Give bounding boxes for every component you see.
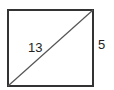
side-length-label: 5 bbox=[98, 37, 105, 52]
diagonal-line bbox=[8, 10, 93, 86]
rectangle-diagram: 13 5 bbox=[0, 0, 114, 90]
diagonal-length-label: 13 bbox=[28, 40, 42, 55]
